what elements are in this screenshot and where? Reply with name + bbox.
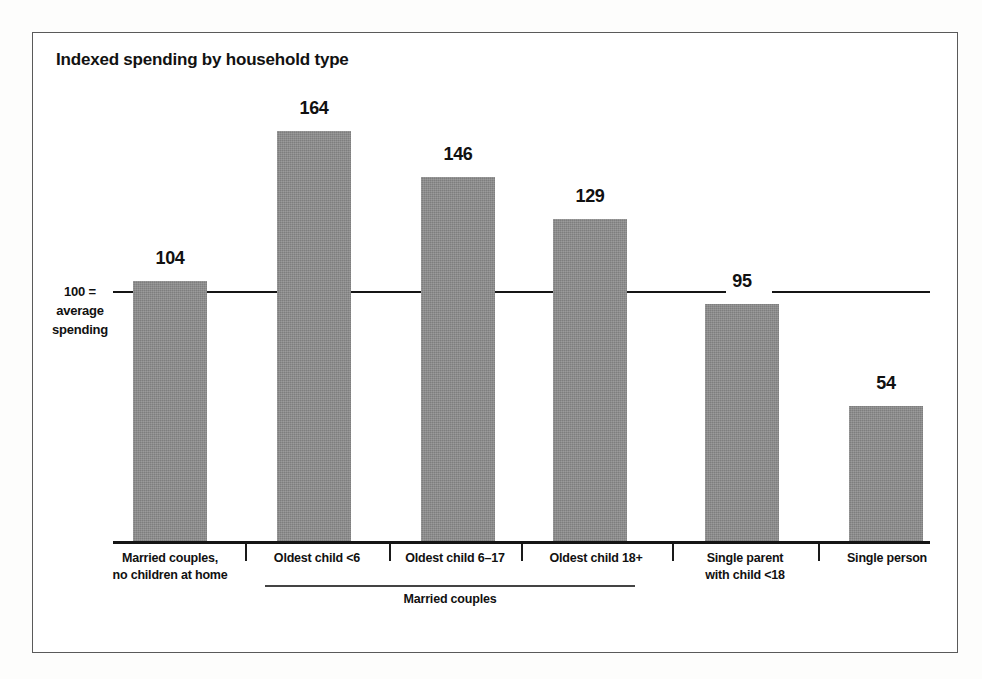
category-label-line-1: Oldest child 6–17 — [389, 550, 521, 567]
bar-value-single-parent: 95 — [702, 271, 782, 292]
bar-married-no-children — [133, 281, 207, 542]
bar-value-single-person: 54 — [846, 373, 926, 394]
bar-oldest-child-under-6 — [277, 131, 351, 542]
category-label-single-person: Single person — [822, 550, 952, 567]
axis-tick-3 — [521, 544, 523, 561]
axis-tick-4 — [672, 544, 674, 561]
category-label-oldest-child-6-17: Oldest child 6–17 — [389, 550, 521, 567]
bar-value-married-no-children: 104 — [130, 248, 210, 269]
bar-single-parent — [705, 304, 779, 542]
category-label-line-1: Single person — [822, 550, 952, 567]
category-label-married-no-children: Married couples, no children at home — [100, 550, 240, 584]
axis-label-line-1: 100 = — [44, 282, 116, 301]
category-label-line-1: Oldest child 18+ — [524, 550, 668, 567]
category-label-line-2: with child <18 — [677, 567, 813, 584]
axis-tick-5 — [818, 544, 820, 561]
plot-area: 100 = average spending 104 164 146 129 9… — [0, 0, 982, 679]
bar-oldest-child-6-17 — [421, 177, 495, 542]
category-label-oldest-child-under-6: Oldest child <6 — [249, 550, 385, 567]
bar-value-oldest-child-18-plus: 129 — [550, 186, 630, 207]
axis-tick-1 — [245, 544, 247, 561]
category-label-line-2: no children at home — [100, 567, 240, 584]
category-label-line-1: Married couples, — [100, 550, 240, 567]
group-bracket-label: Married couples — [265, 592, 635, 606]
category-label-oldest-child-18-plus: Oldest child 18+ — [524, 550, 668, 567]
bar-value-oldest-child-under-6: 164 — [274, 98, 354, 119]
axis-label-line-3: spending — [44, 320, 116, 339]
reference-line-right — [772, 291, 930, 293]
bar-single-person — [849, 406, 923, 542]
group-bracket-line — [265, 585, 635, 587]
category-label-single-parent: Single parent with child <18 — [677, 550, 813, 584]
category-label-line-1: Single parent — [677, 550, 813, 567]
bar-oldest-child-18-plus — [553, 219, 627, 542]
bar-value-oldest-child-6-17: 146 — [418, 144, 498, 165]
axis-label-line-2: average — [44, 301, 116, 320]
y-axis-reference-label: 100 = average spending — [44, 282, 116, 339]
category-label-line-1: Oldest child <6 — [249, 550, 385, 567]
chart-page: Indexed spending by household type 100 =… — [0, 0, 982, 679]
